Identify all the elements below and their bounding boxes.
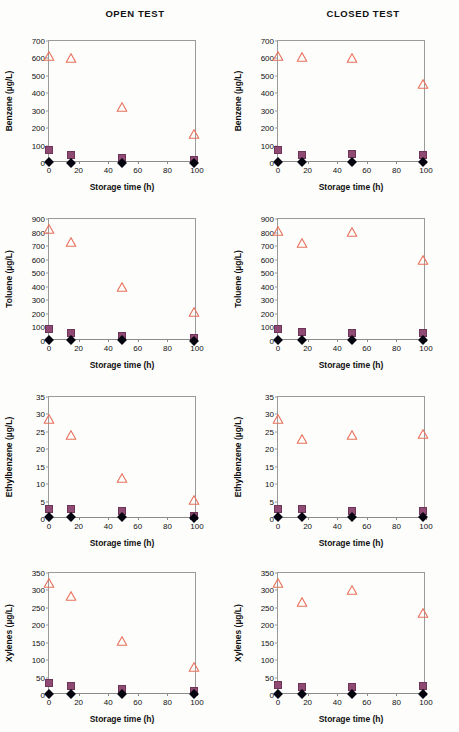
x-tick-mark <box>337 517 338 520</box>
data-point-open-triangle <box>418 79 429 89</box>
x-tick-mark <box>337 339 338 342</box>
y-tick-mark <box>46 660 49 661</box>
x-tick-mark <box>396 693 397 696</box>
x-tick-mark <box>396 161 397 164</box>
data-point-filled-square <box>45 679 53 687</box>
y-tick-mark <box>275 286 278 287</box>
y-axis-label: Ethylbenzene (µg/L) <box>2 396 16 518</box>
y-tick-mark <box>46 501 49 502</box>
y-tick-mark <box>275 607 278 608</box>
y-axis-label: Toluene (µg/L) <box>2 218 16 340</box>
data-point-open-triangle <box>296 597 307 607</box>
y-tick-mark <box>46 313 49 314</box>
figure-panel-grid: OPEN TEST CLOSED TEST Benzene (µg/L)Stor… <box>0 0 459 732</box>
x-axis-label: Storage time (h) <box>48 182 196 192</box>
x-tick-mark <box>79 517 80 520</box>
data-point-open-triangle <box>189 129 200 139</box>
x-tick-mark <box>79 693 80 696</box>
plot-area: 0100200300400500600700020406080100 <box>48 40 196 162</box>
y-tick-mark <box>275 41 278 42</box>
plot-area: 05101520253035020406080100 <box>277 396 425 518</box>
plot-area: 0100200300400500600700800900020406080100 <box>277 218 425 340</box>
x-tick-mark <box>337 161 338 164</box>
chart-panel-ethylbenzene-open: Ethylbenzene (µg/L)Storage time (h)05101… <box>0 380 229 558</box>
y-tick-mark <box>275 259 278 260</box>
data-point-open-triangle <box>296 238 307 248</box>
plot-area: 050100150200250300350020406080100 <box>277 572 425 694</box>
data-point-open-triangle <box>116 473 127 483</box>
x-tick-mark <box>367 339 368 342</box>
y-axis-label: Ethylbenzene (µg/L) <box>231 396 245 518</box>
data-point-open-triangle <box>296 434 307 444</box>
x-tick-mark <box>367 693 368 696</box>
data-point-open-triangle <box>44 414 55 424</box>
x-tick-mark <box>367 517 368 520</box>
column-title-open-test: OPEN TEST <box>40 8 230 19</box>
y-tick-mark <box>275 625 278 626</box>
plot-area: 0100200300400500600700800900020406080100 <box>48 218 196 340</box>
data-point-open-triangle <box>189 662 200 672</box>
y-axis-label-text: Ethylbenzene (µg/L) <box>233 417 243 497</box>
x-tick-mark <box>108 339 109 342</box>
y-tick-mark <box>275 110 278 111</box>
data-point-open-triangle <box>273 51 284 61</box>
x-tick-mark <box>108 517 109 520</box>
y-tick-mark <box>275 449 278 450</box>
data-point-open-triangle <box>418 608 429 618</box>
x-tick-mark <box>138 161 139 164</box>
y-tick-mark <box>46 625 49 626</box>
data-point-open-triangle <box>418 429 429 439</box>
x-tick-mark <box>308 161 309 164</box>
y-tick-mark <box>46 466 49 467</box>
y-tick-mark <box>46 607 49 608</box>
y-tick-mark <box>46 449 49 450</box>
x-tick-mark <box>138 339 139 342</box>
y-tick-mark <box>275 397 278 398</box>
x-tick-mark <box>79 161 80 164</box>
y-tick-mark <box>275 466 278 467</box>
x-tick-mark <box>167 161 168 164</box>
data-point-open-triangle <box>189 307 200 317</box>
data-point-open-triangle <box>347 430 358 440</box>
y-tick-mark <box>46 573 49 574</box>
data-point-filled-square <box>274 146 282 154</box>
x-tick-mark <box>308 693 309 696</box>
y-tick-mark <box>46 110 49 111</box>
y-tick-mark <box>275 642 278 643</box>
y-axis-label-text: Ethylbenzene (µg/L) <box>4 417 14 497</box>
y-axis-label-text: Xylenes (µg/L) <box>233 604 243 662</box>
y-tick-mark <box>46 431 49 432</box>
y-tick-mark <box>275 313 278 314</box>
y-tick-mark <box>275 677 278 678</box>
x-tick-mark <box>367 161 368 164</box>
data-point-filled-square <box>274 681 282 689</box>
y-axis-label-text: Benzene (µg/L) <box>4 71 14 132</box>
data-point-filled-diamond <box>347 158 357 168</box>
x-tick-mark <box>167 693 168 696</box>
x-tick-mark <box>396 517 397 520</box>
data-point-open-triangle <box>189 495 200 505</box>
data-point-open-triangle <box>44 51 55 61</box>
y-axis-label-text: Toluene (µg/L) <box>233 250 243 308</box>
data-point-open-triangle <box>116 636 127 646</box>
x-tick-mark <box>308 517 309 520</box>
data-point-open-triangle <box>347 53 358 63</box>
y-tick-mark <box>46 286 49 287</box>
x-tick-mark <box>167 339 168 342</box>
y-tick-mark <box>46 397 49 398</box>
plot-area: 05101520253035020406080100 <box>48 396 196 518</box>
y-tick-mark <box>46 75 49 76</box>
y-tick-mark <box>275 93 278 94</box>
y-axis-label: Toluene (µg/L) <box>231 218 245 340</box>
y-tick-mark <box>275 246 278 247</box>
x-tick-mark <box>308 339 309 342</box>
data-point-open-triangle <box>273 578 284 588</box>
data-point-open-triangle <box>296 52 307 62</box>
y-tick-mark <box>275 573 278 574</box>
chart-panel-xylenes-closed: Xylenes (µg/L)Storage time (h)0501001502… <box>229 556 458 732</box>
x-tick-mark <box>138 693 139 696</box>
x-tick-mark <box>108 693 109 696</box>
chart-panel-toluene-closed: Toluene (µg/L)Storage time (h)0100200300… <box>229 202 458 380</box>
chart-panel-ethylbenzene-closed: Ethylbenzene (µg/L)Storage time (h)05101… <box>229 380 458 558</box>
data-point-filled-square <box>274 325 282 333</box>
